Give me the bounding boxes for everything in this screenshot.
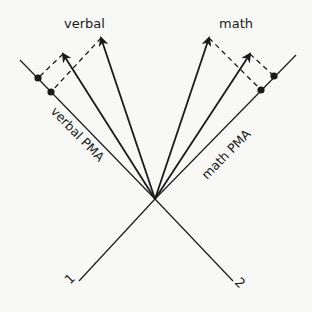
verbal-projection-dash-inner	[51, 38, 101, 92]
math-projection-point-2	[257, 86, 264, 93]
diagram-canvas: verbal math verbal PMA math PMA 1 2	[0, 0, 312, 312]
math-pma-label: math PMA	[198, 126, 253, 182]
axis-2-line	[155, 199, 233, 281]
axis-2-label: 2	[232, 275, 248, 291]
verbal-pma-axis	[20, 60, 155, 199]
math-projection-point-1	[270, 72, 277, 79]
verbal-projection-point-1	[34, 74, 41, 81]
verbal-vector-2	[101, 38, 155, 199]
vector-projection-diagram: verbal math verbal PMA math PMA 1 2	[0, 0, 312, 312]
math-projection-dash-inner	[209, 38, 261, 90]
verbal-label: verbal	[64, 16, 105, 31]
axis-1-label: 1	[62, 271, 78, 287]
math-label: math	[219, 16, 253, 31]
axis-1-line	[79, 199, 155, 281]
math-projection-dash-outer	[250, 54, 274, 76]
verbal-projection-dash-outer	[38, 54, 63, 78]
verbal-projection-point-2	[47, 88, 54, 95]
verbal-pma-label: verbal PMA	[48, 104, 108, 165]
math-vector-2	[155, 54, 250, 199]
